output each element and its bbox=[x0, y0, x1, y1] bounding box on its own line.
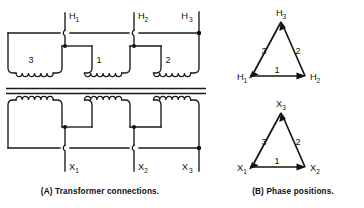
terminal-label-x3-sub: 3 bbox=[189, 167, 193, 174]
secondary-winding-3-right-lead bbox=[53, 100, 62, 127]
secondary-winding-2 bbox=[154, 96, 200, 148]
triangle-x-side-3-arrowhead bbox=[249, 162, 259, 170]
triangle-x-vertex-x2-sub: 2 bbox=[316, 168, 320, 175]
h2-crossover-jog bbox=[132, 30, 134, 46]
panel-b-caption: (B) Phase positions. bbox=[252, 187, 334, 196]
transformer-core bbox=[6, 89, 206, 94]
triangle-x-side-3-label: 3 bbox=[261, 137, 266, 147]
secondary-winding-1-left-lead bbox=[85, 100, 93, 127]
secondary-phase-triangle: 1 2 3 X 1 X 2 X 3 bbox=[237, 99, 320, 175]
triangle-h-vertex-h1-sub: 1 bbox=[243, 77, 247, 84]
triangle-h-side-1-label: 1 bbox=[274, 65, 279, 75]
secondary-left-riser bbox=[8, 100, 16, 148]
triangle-h-side-3-label: 3 bbox=[261, 46, 266, 56]
triangle-h-side-3-arrowhead bbox=[249, 71, 259, 79]
primary-winding-2-right-lead bbox=[191, 33, 199, 73]
transformer-figure: 3 H 1 1 H 2 bbox=[0, 0, 364, 208]
triangle-h-vertex-h3-sub: 3 bbox=[282, 13, 286, 20]
terminal-lead-h3: H 3 bbox=[181, 11, 201, 35]
triangle-x-side-2-label: 2 bbox=[295, 137, 300, 147]
terminal-lead-x2: X 2 bbox=[132, 125, 148, 174]
panel-b-phase-positions: 1 2 3 H 1 H 2 H 3 1 2 3 X 1 bbox=[237, 8, 334, 196]
panel-a-caption: (A) Transformer connections. bbox=[41, 187, 159, 196]
x1-crossover-jog bbox=[63, 145, 65, 171]
primary-left-riser bbox=[8, 33, 16, 73]
primary-winding-1-right-lead bbox=[122, 46, 130, 73]
terminal-lead-h2: H 2 bbox=[130, 11, 161, 73]
terminal-label-h2-sub: 2 bbox=[144, 16, 148, 23]
triangle-h-vertex-h2-sub: 2 bbox=[316, 77, 320, 84]
x2-crossover-jog bbox=[132, 145, 134, 171]
primary-winding-1-label: 1 bbox=[96, 55, 101, 65]
primary-winding-3: 3 bbox=[16, 46, 62, 77]
h1-crossover-jog bbox=[63, 30, 65, 46]
secondary-winding-1 bbox=[85, 96, 131, 127]
primary-winding-1-left-lead bbox=[85, 46, 93, 73]
terminal-label-h3-sub: 3 bbox=[189, 16, 193, 23]
terminal-label-h3-base: H bbox=[181, 11, 188, 21]
figure-root: 3 H 1 1 H 2 bbox=[0, 0, 364, 208]
triangle-h-side-2-label: 2 bbox=[295, 46, 300, 56]
primary-winding-2-left-lead bbox=[154, 46, 162, 73]
primary-winding-3-right-lead bbox=[53, 46, 62, 73]
panel-a-transformer-connections: 3 H 1 1 H 2 bbox=[6, 11, 206, 196]
terminal-label-h1-sub: 1 bbox=[75, 16, 79, 23]
terminal-lead-x1: X 1 bbox=[63, 125, 79, 174]
h3-junction-node bbox=[197, 31, 201, 35]
secondary-winding-2-left-lead bbox=[154, 100, 162, 127]
terminal-label-x3-base: X bbox=[182, 162, 188, 172]
secondary-winding-3 bbox=[16, 96, 62, 127]
primary-winding-3-label: 3 bbox=[28, 55, 33, 65]
secondary-winding-1-right-lead bbox=[122, 100, 130, 127]
terminal-label-x2-sub: 2 bbox=[144, 167, 148, 174]
triangle-x-vertex-x1-sub: 1 bbox=[243, 168, 247, 175]
primary-winding-2-label: 2 bbox=[165, 55, 170, 65]
terminal-lead-h1: H 1 bbox=[62, 11, 92, 73]
terminal-label-x1-sub: 1 bbox=[75, 167, 79, 174]
terminal-lead-x3: X 3 bbox=[182, 146, 201, 174]
triangle-x-vertex-x3-sub: 3 bbox=[282, 104, 286, 111]
secondary-winding-2-right-lead bbox=[191, 100, 199, 148]
primary-phase-triangle: 1 2 3 H 1 H 2 H 3 bbox=[237, 8, 320, 84]
triangle-x-side-1-label: 1 bbox=[274, 156, 279, 166]
